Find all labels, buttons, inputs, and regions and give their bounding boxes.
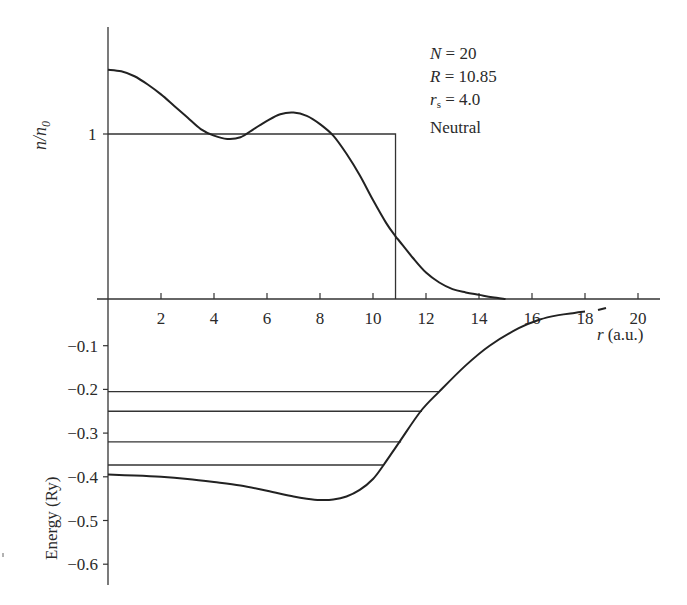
jellium-sphere-chart: 2468101214161820 −0.1−0.2−0.3−0.4−0.5−0.… (0, 0, 687, 605)
energy-tick-label: −0.1 (67, 337, 98, 356)
x-tick-label: 8 (316, 309, 325, 328)
energy-ticks (103, 346, 108, 565)
energy-axis-label: Energy (Ry) (42, 476, 61, 560)
jellium-step-line (108, 134, 396, 299)
x-ticks (161, 293, 638, 299)
parameter-annotation: N = 20 R = 10.85 rs = 4.0 Neutral (430, 42, 497, 139)
x-tick-labels: 2468101214161820 (157, 309, 647, 328)
param-n: N = 20 (430, 42, 497, 65)
energy-tick-labels: −0.1−0.2−0.3−0.4−0.5−0.6 (67, 337, 98, 575)
x-tick-label: 10 (365, 309, 382, 328)
density-axis-label: n/n0 (30, 121, 53, 150)
energy-tick-label: −0.6 (67, 555, 98, 574)
param-rs: rs = 4.0 (430, 88, 497, 116)
density-tick-label-one: 1 (88, 125, 97, 144)
x-tick-label: 2 (157, 309, 166, 328)
potential-curve (108, 312, 585, 500)
energy-levels (108, 392, 439, 465)
param-charge: Neutral (430, 116, 497, 139)
energy-tick-label: −0.5 (67, 512, 98, 531)
x-tick-label: 14 (471, 309, 489, 328)
energy-tick-label: −0.4 (67, 468, 98, 487)
energy-tick-label: −0.2 (67, 380, 98, 399)
potential-tail-dash (598, 308, 606, 310)
x-tick-label: 4 (210, 309, 219, 328)
x-axis-label: r(a.u.) (597, 325, 644, 344)
x-tick-label: 12 (418, 309, 435, 328)
x-tick-label: 6 (263, 309, 272, 328)
param-r: R = 10.85 (430, 65, 497, 88)
energy-tick-label: −0.3 (67, 424, 98, 443)
